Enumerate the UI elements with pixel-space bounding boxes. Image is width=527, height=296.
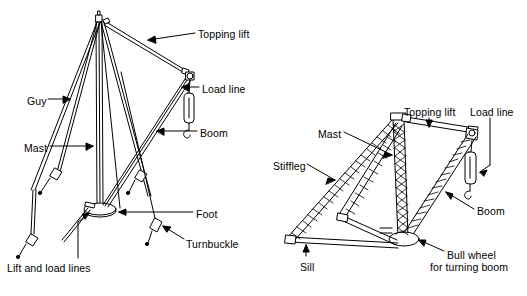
label-mast-left: Mast <box>24 142 47 154</box>
crane-diagram-figure: Topping lift Load line Boom Guy Mast Foo… <box>0 0 527 296</box>
label-topping-lift-right: Topping lift <box>404 106 455 118</box>
label-mast-right: Mast <box>318 128 341 140</box>
label-topping-lift-left: Topping lift <box>198 28 249 40</box>
label-sill-right: Sill <box>300 261 314 273</box>
label-load-line-right: Load line <box>470 106 514 118</box>
label-bull-wheel-line-1: Bull wheel <box>447 249 496 261</box>
label-guy-left: Guy <box>27 95 47 107</box>
label-load-line-left: Load line <box>202 83 246 95</box>
label-bull-wheel-line-2: for turning boom <box>430 261 508 273</box>
stiffleg-derrick-art <box>285 113 490 256</box>
label-foot-left: Foot <box>196 208 217 220</box>
label-turnbuckle-left: Turnbuckle <box>186 238 239 250</box>
label-stiffleg-right: Stiffleg <box>273 160 306 172</box>
label-lift-and-load-lines-left: Lift and load lines <box>7 262 91 274</box>
label-boom-left: Boom <box>200 127 228 139</box>
label-boom-right: Boom <box>477 205 505 217</box>
guy-derrick-art <box>16 11 199 259</box>
